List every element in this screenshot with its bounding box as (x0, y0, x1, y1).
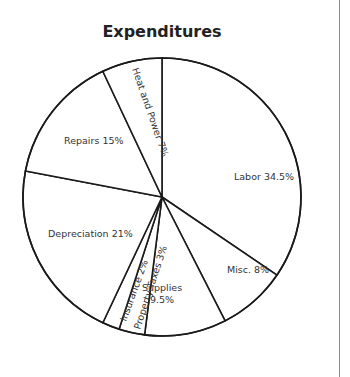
label-labor: Labor 34.5% (234, 171, 294, 182)
label-depreciation: Depreciation 21% (48, 228, 133, 239)
label-supplies-value: 9.5% (150, 294, 174, 305)
label-repairs: Repairs 15% (64, 135, 124, 146)
pie-chart: Labor 34.5% Misc. 8% Supplies 9.5% Prope… (0, 0, 350, 377)
label-misc: Misc. 8% (227, 264, 269, 275)
